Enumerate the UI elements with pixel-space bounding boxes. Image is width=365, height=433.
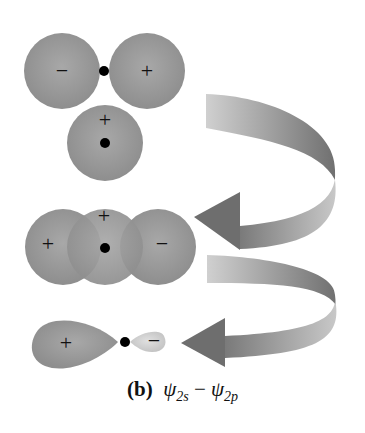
arrowhead-icon (181, 318, 225, 367)
operator: − (194, 377, 206, 401)
arrow-ribbon-bottom (240, 170, 336, 249)
p-orbital: − + (24, 33, 185, 109)
psi-symbol: ψ (211, 377, 224, 401)
orbital-diagram: − + + + + − + − (0, 0, 365, 433)
subscript: 2p (224, 389, 238, 404)
plus-sign: + (60, 330, 72, 355)
overlap-orbitals: + + − (25, 203, 196, 285)
nucleus-dot (100, 138, 110, 148)
nucleus-dot (120, 337, 130, 347)
arrowhead-icon (194, 192, 240, 250)
arrow-ribbon-top (207, 255, 336, 305)
minus-sign: − (148, 328, 160, 353)
minus-sign: − (56, 58, 68, 83)
plus-sign: + (42, 231, 54, 256)
figure-caption: (b) ψ2s − ψ2p (0, 377, 365, 405)
subscript: 2s (176, 389, 188, 404)
curved-arrow-lower (181, 255, 336, 367)
arrow-ribbon-bottom (225, 295, 336, 358)
panel-label: (b) (127, 377, 153, 401)
plus-sign: + (98, 203, 110, 228)
sp-hybrid-orbital: + − (32, 321, 166, 369)
minus-sign: − (156, 231, 168, 256)
hybrid-large-lobe (32, 321, 118, 369)
nucleus-dot (100, 243, 110, 253)
s-orbital: + (67, 105, 143, 181)
plus-sign: + (99, 107, 111, 132)
plus-sign: + (141, 58, 153, 83)
arrow-ribbon-top (206, 94, 335, 180)
psi-symbol: ψ (163, 377, 176, 401)
curved-arrow-upper (194, 94, 336, 250)
nucleus-dot (99, 66, 109, 76)
